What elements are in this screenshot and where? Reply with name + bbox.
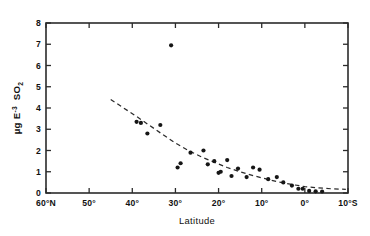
data-point-0-27	[320, 189, 324, 193]
y-tick-label-0: 0	[36, 188, 41, 198]
y-axis-title-species: SO	[11, 85, 22, 100]
data-point-0-16	[245, 175, 249, 179]
y-axis-tick-labels: 012345678	[36, 18, 41, 198]
x-tick-label-1: 50°	[82, 198, 96, 208]
x-axis-tick-labels: 60°N50°40°30°20°10°0°10°S	[36, 198, 358, 208]
y-tick-label-2: 2	[36, 146, 41, 156]
data-point-0-17	[251, 165, 255, 169]
data-point-0-22	[290, 183, 294, 187]
data-point-0-18	[257, 168, 261, 172]
scatter-point-group	[135, 43, 325, 193]
y-tick-label-8: 8	[36, 18, 41, 28]
y-axis-title-species-subscript: 2	[17, 82, 24, 86]
data-point-0-23	[296, 187, 300, 191]
data-point-0-9	[206, 162, 210, 166]
x-tick-label-6: 0°	[301, 198, 310, 208]
data-point-0-10	[212, 159, 216, 163]
data-point-0-2	[145, 131, 149, 135]
y-axis-title: µg E-3 SO2	[11, 82, 24, 135]
y-tick-label-3: 3	[36, 124, 41, 134]
x-tick-label-4: 20°	[212, 198, 226, 208]
data-point-0-5	[175, 165, 179, 169]
data-point-0-25	[307, 189, 311, 193]
x-tick-label-3: 30°	[169, 198, 183, 208]
data-point-0-6	[179, 161, 183, 165]
y-axis-title-prefix: µg E	[11, 112, 22, 134]
x-tick-label-2: 40°	[125, 198, 139, 208]
y-tick-label-1: 1	[36, 167, 41, 177]
data-point-0-12	[219, 170, 223, 174]
scatter-plot-figure: 60°N50°40°30°20°10°0°10°S 012345678 Lati…	[0, 0, 370, 236]
x-tick-label-5: 10°	[255, 198, 269, 208]
data-point-0-8	[201, 148, 205, 152]
chart-canvas: 60°N50°40°30°20°10°0°10°S 012345678 Lati…	[0, 0, 370, 236]
y-tick-label-4: 4	[36, 103, 41, 113]
data-point-0-4	[169, 43, 173, 47]
data-point-0-26	[314, 189, 318, 193]
data-point-0-19	[266, 177, 270, 181]
x-tick-label-0: 60°N	[36, 198, 56, 208]
trend-curve-dashed	[111, 100, 346, 190]
data-point-0-15	[236, 166, 240, 170]
svg-text:µg E-3 SO2: µg E-3 SO2	[11, 82, 24, 135]
data-point-0-1	[139, 121, 143, 125]
y-tick-label-7: 7	[36, 39, 41, 49]
data-point-0-20	[275, 175, 279, 179]
plot-frame	[46, 23, 348, 193]
x-axis-title: Latitude	[179, 215, 215, 226]
data-point-0-3	[158, 123, 162, 127]
data-point-0-0	[135, 120, 139, 124]
data-point-0-13	[225, 158, 229, 162]
data-point-0-24	[301, 187, 305, 191]
y-tick-label-5: 5	[36, 82, 41, 92]
data-point-0-14	[229, 174, 233, 178]
data-point-0-7	[188, 151, 192, 155]
data-point-0-21	[281, 180, 285, 184]
x-tick-label-7: 10°S	[338, 198, 358, 208]
y-tick-label-6: 6	[36, 61, 41, 71]
